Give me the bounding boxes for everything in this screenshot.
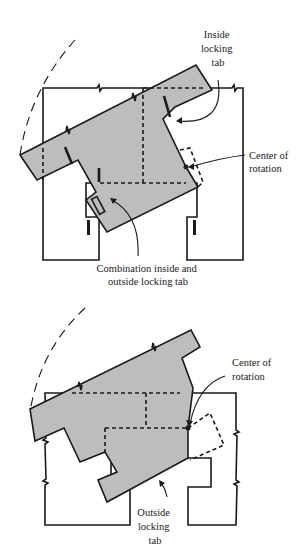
locking-tab-rotation-diagram: Inside locking tab Center of rotation Co… — [0, 0, 303, 554]
rotated-panel — [30, 330, 200, 502]
center-of-rotation-dot — [184, 165, 189, 170]
label-combination-tab: Combination inside and outside locking t… — [97, 263, 200, 287]
rotated-panel — [20, 65, 212, 232]
leader-center — [190, 376, 225, 424]
center-of-rotation-dot — [186, 426, 191, 431]
label-center-of-rotation-bottom: Center of rotation — [232, 357, 274, 382]
hidden-tab-outline — [188, 413, 224, 460]
arrowhead — [188, 163, 194, 170]
label-center-of-rotation-top: Center of rotation — [249, 150, 291, 174]
frame-tab-left — [87, 220, 90, 235]
arrowhead — [159, 480, 165, 487]
label-inside-locking-tab: Inside locking tab — [201, 29, 235, 68]
arrowhead — [176, 117, 182, 124]
label-outside-locking-tab: Outside locking tab — [137, 507, 172, 546]
frame-tab-right — [193, 220, 196, 235]
top-diagram: Inside locking tab Center of rotation Co… — [20, 29, 291, 287]
leader-center — [190, 155, 245, 167]
bottom-diagram: Center of rotation Outside locking tab — [30, 308, 274, 546]
